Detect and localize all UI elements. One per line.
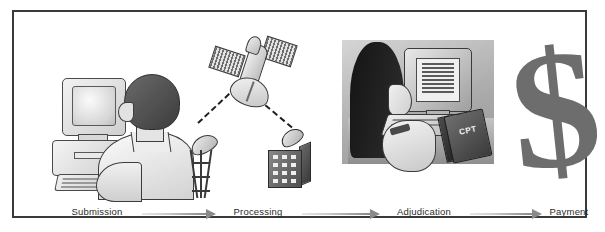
flow-arrow-1 xyxy=(142,209,216,219)
person-ear-icon xyxy=(118,102,134,122)
flow-label-submission: Submission xyxy=(42,206,152,217)
flow-arrow-2 xyxy=(302,209,380,219)
illustration-processing xyxy=(182,36,322,196)
ground-tower-icon xyxy=(188,136,218,198)
worker-face-icon xyxy=(388,84,412,116)
illustration-adjudication: CPT xyxy=(342,40,494,192)
diagram-frame: CPT $ Submission Processing Adjudication… xyxy=(12,10,587,218)
diagram-canvas: CPT $ Submission Processing Adjudication… xyxy=(0,0,605,232)
office-building-icon xyxy=(266,140,310,188)
satellite-dish-icon xyxy=(226,72,273,112)
monitor-screen-icon xyxy=(416,58,460,102)
solar-panel-left-icon xyxy=(208,46,246,78)
dollar-sign-icon: $ xyxy=(499,29,605,200)
flow-label-payment: Payment xyxy=(534,206,604,217)
flow-label-adjudication: Adjudication xyxy=(374,206,474,217)
tower-dish-icon xyxy=(188,130,221,158)
illustration-submission xyxy=(40,70,190,198)
flow-arrow-3 xyxy=(470,209,542,219)
flow-label-processing: Processing xyxy=(212,206,304,217)
satellite-icon xyxy=(212,36,292,106)
crt-screen-icon xyxy=(72,86,116,126)
illustration-payment: $ xyxy=(510,34,602,196)
